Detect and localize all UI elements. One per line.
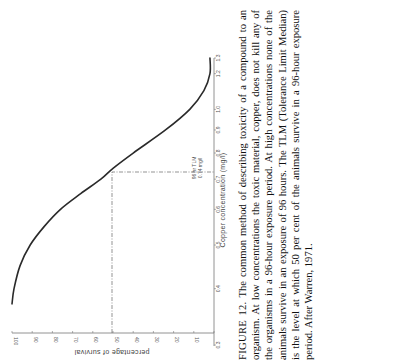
concentration-tick-label: 0.3: [215, 341, 221, 348]
concentration-axis-title: Copper concentration (mg/l): [219, 153, 227, 248]
caption-text: The common method of describing toxicity…: [237, 10, 314, 360]
concentration-tick-label: 0.9: [215, 126, 221, 133]
concentration-tick-label: 1.3: [215, 54, 221, 61]
tlm-annotation: 96 hr TLM 0.74 mg/l: [191, 157, 203, 180]
tlm-reference-line: [112, 172, 214, 333]
toxicity-chart: 100908070605040302010 0.30.40.50.60.70.8…: [0, 0, 230, 363]
tlm-label-line2: 0.74 mg/l: [197, 158, 203, 179]
survival-tick-label: 20: [174, 337, 180, 343]
survival-curve: [12, 58, 210, 304]
concentration-tick-label: 0.4: [215, 285, 221, 292]
figure-label: FIGURE 12.: [237, 301, 248, 360]
survival-tick-label: 50: [114, 337, 120, 343]
survival-tick-label: 100: [13, 337, 19, 346]
figure-caption: FIGURE 12. The common method of describi…: [236, 10, 315, 360]
survival-tick-label: 10: [194, 337, 200, 343]
survival-tick-label: 90: [33, 337, 39, 343]
concentration-tick-label: 1.0: [215, 106, 221, 113]
survival-tick-label: 40: [134, 337, 140, 343]
survival-tick-label: 60: [93, 337, 99, 343]
survival-tick-label: 80: [53, 337, 59, 343]
survival-axis-title: percentage of survival: [74, 348, 149, 356]
survival-tick-label: 30: [154, 337, 160, 343]
concentration-tick-label: 1.2: [215, 70, 221, 77]
survival-tick-label: 70: [73, 337, 79, 343]
